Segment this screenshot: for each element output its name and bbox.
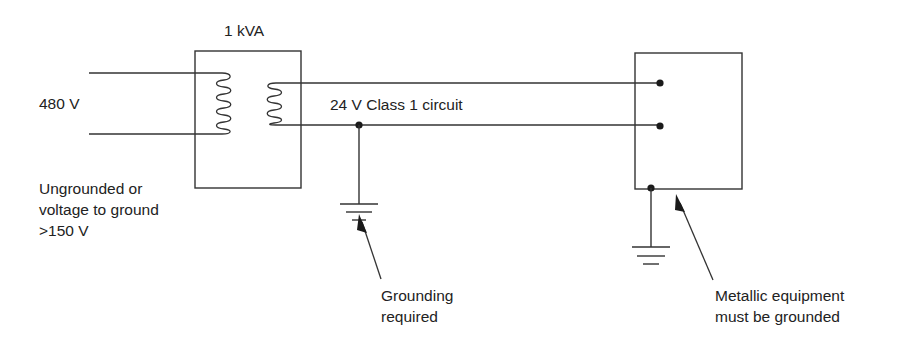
equipment-box — [635, 53, 742, 189]
grounding-note-line: Grounding — [381, 285, 453, 306]
arrow-icon — [675, 194, 713, 280]
arrow-icon — [357, 214, 381, 279]
equipment-note-line: must be grounded — [715, 306, 844, 327]
terminal-dot-icon — [656, 79, 663, 86]
equipment-note: Metallic equipment must be grounded — [715, 285, 844, 327]
ground-icon — [632, 247, 670, 264]
transformer-box — [195, 51, 301, 188]
circuit-label: 24 V Class 1 circuit — [330, 95, 463, 115]
primary-coil-icon — [212, 73, 231, 134]
primary-note-line: Ungrounded or — [39, 178, 159, 199]
primary-note-line: voltage to ground — [39, 199, 159, 220]
grounding-required-note: Grounding required — [381, 285, 453, 327]
terminal-dot-icon — [656, 122, 663, 129]
transformer-rating-label: 1 kVA — [224, 21, 264, 41]
primary-note: Ungrounded or voltage to ground >150 V — [39, 178, 159, 241]
secondary-coil-icon — [267, 83, 281, 125]
equipment-note-line: Metallic equipment — [715, 285, 844, 306]
primary-voltage-label: 480 V — [39, 94, 80, 114]
primary-note-line: >150 V — [39, 220, 159, 241]
primary-wires — [89, 73, 222, 134]
grounding-note-line: required — [381, 306, 453, 327]
